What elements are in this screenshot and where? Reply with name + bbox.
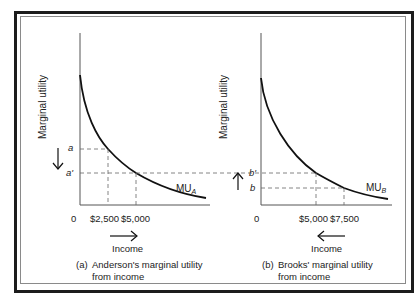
panel-a-y-axis-label: Marginal utility <box>37 75 48 139</box>
panel-b-x-axis-label: Income <box>311 243 342 254</box>
panel-b-curve-mu-b <box>261 78 388 199</box>
arrow-right-icon <box>110 231 137 241</box>
arrow-up-icon <box>233 173 243 190</box>
panel-b-origin-label: 0 <box>254 213 259 224</box>
panel-b-y-tick-b: b <box>250 182 255 193</box>
panel-a-curve-label: MUA <box>176 183 196 195</box>
panel-b-y-tick-b-prime: b' <box>249 167 256 178</box>
panel-a-y-tick-a-prime: a' <box>66 167 73 178</box>
chart-canvas <box>0 0 416 301</box>
arrow-down-icon <box>53 148 63 169</box>
panel-b-x-tick-5000: $5,000 <box>299 213 328 224</box>
panel-a-y-tick-a: a <box>68 142 73 153</box>
panel-a-x-axis-label: Income <box>112 243 143 254</box>
panel-b-guides <box>261 173 344 205</box>
panel-a-caption: (a)Anderson's marginal utility from inco… <box>76 259 203 283</box>
panel-a-axes <box>80 33 210 205</box>
panel-a-x-tick-2500: $2,500 <box>90 213 119 224</box>
arrow-left-icon <box>318 231 345 241</box>
panel-b-y-axis-label: Marginal utility <box>218 75 229 139</box>
panel-a-x-tick-5000: $5,000 <box>121 213 150 224</box>
panel-b-caption: (b)Brooks' marginal utility from income <box>262 259 373 283</box>
panel-b-x-tick-7500: $7,500 <box>330 213 359 224</box>
panel-a-curve-mu-a <box>80 75 206 198</box>
panel-b-curve-label: MUB <box>366 182 386 194</box>
panel-a-origin-label: 0 <box>71 213 76 224</box>
